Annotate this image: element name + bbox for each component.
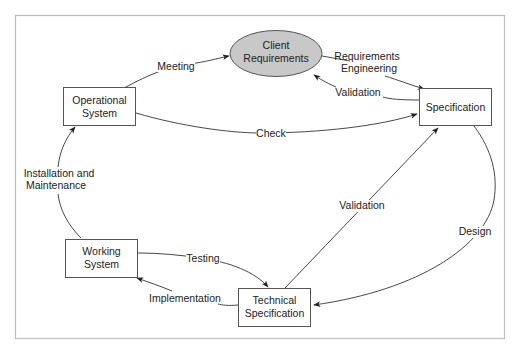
node-label-working-system: System xyxy=(84,258,119,270)
node-client-requirements: Client Requirements xyxy=(230,31,322,77)
node-label-client: Client xyxy=(263,39,290,51)
edge-label-testing: Testing xyxy=(186,252,219,264)
edge-label-check: Check xyxy=(256,127,287,139)
edge-label-engineering: Engineering xyxy=(341,62,397,74)
edge-label-requirements: Requirements xyxy=(334,50,399,62)
edge-label-design: Design xyxy=(459,225,492,237)
node-technical-specification: Technical Specification xyxy=(239,289,311,327)
edge-label-validation-top: Validation xyxy=(335,86,380,98)
node-working-system: Working System xyxy=(66,240,138,278)
node-specification: Specification xyxy=(420,89,492,126)
node-label-working: Working xyxy=(82,245,120,257)
node-operational-system: Operational System xyxy=(64,88,136,126)
node-label-operational-system: System xyxy=(82,107,117,119)
node-label-operational: Operational xyxy=(72,94,126,106)
node-label-technical-specification: Specification xyxy=(245,307,305,319)
node-label-specification: Specification xyxy=(426,101,486,113)
edge-label-validation-mid: Validation xyxy=(339,199,384,211)
edge-label-implementation: Implementation xyxy=(149,292,221,304)
edge-label-maintenance: Maintenance xyxy=(26,179,86,191)
node-label-requirements: Requirements xyxy=(243,52,308,64)
node-label-technical: Technical xyxy=(253,294,297,306)
edge-label-meeting: Meeting xyxy=(157,60,195,72)
edge-label-installation: Installation and xyxy=(24,167,95,179)
diagram-canvas: Meeting Requirements Engineering Validat… xyxy=(0,0,517,352)
